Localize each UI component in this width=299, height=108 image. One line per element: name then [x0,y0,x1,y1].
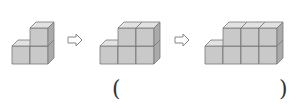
answer-open-paren: ( [112,78,121,100]
figure-3 [205,22,283,64]
arrow-right-icon [68,34,82,46]
arrow-right-icon [175,34,189,46]
figure-1 [12,22,54,64]
figure-2 [100,22,160,64]
answer-blank[interactable] [124,80,274,102]
answer-close-paren: ) [279,78,288,100]
